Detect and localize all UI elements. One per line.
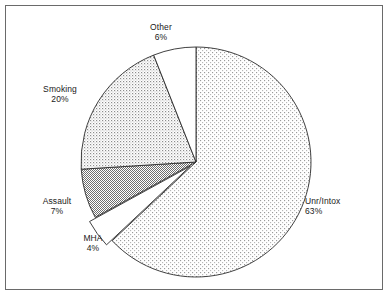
pie-slice-label: Smoking20% — [43, 84, 77, 104]
pie-slice-label-percent: 6% — [150, 32, 172, 42]
pie-slices-group — [81, 47, 311, 277]
pie-chart — [0, 0, 390, 301]
pie-slice-label-name: Other — [150, 22, 172, 32]
pie-slice-label-name: Smoking — [43, 84, 77, 94]
pie-slice-label-name: MHA — [83, 233, 102, 243]
pie-slice-label-percent: 7% — [43, 206, 72, 216]
pie-slice-label-percent: 20% — [43, 94, 77, 104]
pie-slice-label-percent: 4% — [83, 243, 102, 253]
pie-slice-label: Unr/Intox63% — [305, 196, 340, 216]
pie-slice-label-name: Unr/Intox — [305, 196, 340, 206]
pie-slice-label-name: Assault — [43, 196, 72, 206]
pie-slice-label-percent: 63% — [305, 206, 340, 216]
chart-canvas: Unr/Intox63%MHA4%Assault7%Smoking20%Othe… — [0, 0, 390, 301]
pie-slice-label: Assault7% — [43, 196, 72, 216]
pie-slice-label: MHA4% — [83, 233, 102, 253]
pie-slice-label: Other6% — [150, 22, 172, 42]
